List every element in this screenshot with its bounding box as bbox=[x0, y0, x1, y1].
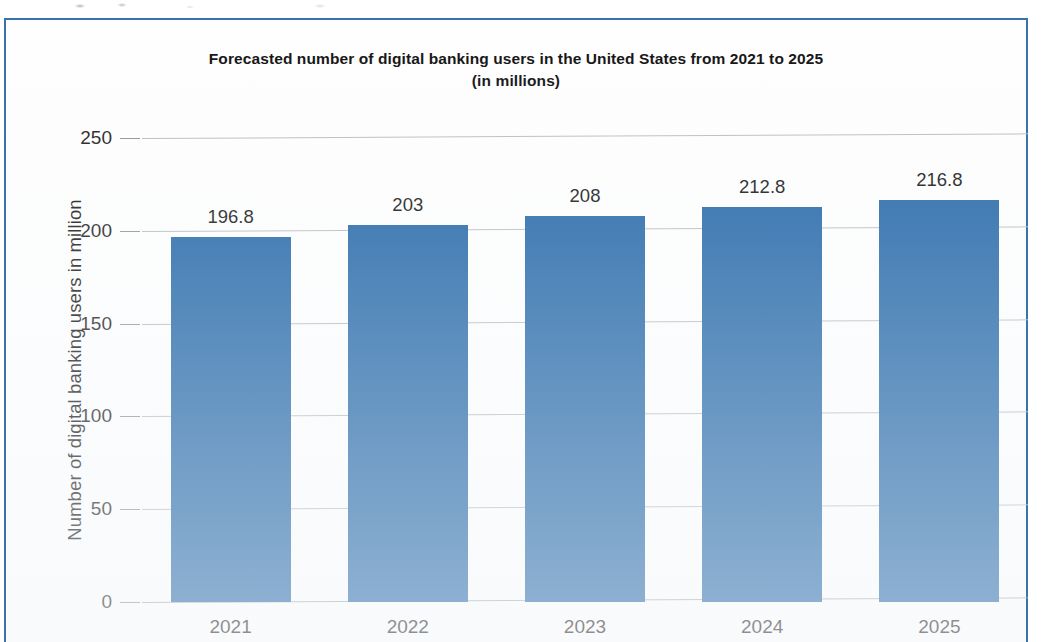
y-tick-mark bbox=[120, 509, 140, 510]
chart-title: Forecasted number of digital banking use… bbox=[6, 48, 1026, 92]
bar[interactable] bbox=[525, 216, 645, 602]
y-tick-label: 200 bbox=[80, 220, 112, 242]
bar-group[interactable]: 216.82025 bbox=[879, 138, 999, 602]
y-tick-mark bbox=[120, 602, 140, 603]
chart-title-line-2: (in millions) bbox=[6, 70, 1026, 92]
bar-group[interactable]: 196.82021 bbox=[171, 138, 291, 602]
bar-group[interactable]: 2032022 bbox=[348, 138, 468, 602]
y-axis-title-text: Number of digital banking users in milli… bbox=[64, 199, 86, 540]
y-tick-mark bbox=[120, 324, 140, 325]
scan-noise bbox=[70, 2, 410, 11]
bar-group[interactable]: 212.82024 bbox=[702, 138, 822, 602]
bar-value-label: 212.8 bbox=[702, 176, 822, 198]
x-tick-label: 2022 bbox=[348, 616, 468, 638]
y-tick-mark bbox=[120, 231, 140, 232]
x-tick-label: 2023 bbox=[525, 616, 645, 638]
chart-title-line-1: Forecasted number of digital banking use… bbox=[6, 48, 1026, 70]
x-tick-label: 2021 bbox=[171, 616, 291, 638]
bar-series: 196.8202120320222082023212.82024216.8202… bbox=[142, 138, 1028, 602]
y-tick-mark bbox=[120, 138, 140, 139]
bar[interactable] bbox=[879, 200, 999, 602]
y-tick-label: 0 bbox=[101, 591, 112, 613]
y-tick-label: 150 bbox=[80, 313, 112, 335]
bar-value-label: 216.8 bbox=[879, 169, 999, 191]
bar[interactable] bbox=[702, 207, 822, 602]
bar-value-label: 208 bbox=[525, 185, 645, 207]
bar[interactable] bbox=[171, 237, 291, 602]
y-tick-mark bbox=[120, 416, 140, 417]
plot-area: 050100150200250 196.82021203202220820232… bbox=[142, 138, 1028, 602]
x-tick-label: 2025 bbox=[879, 616, 999, 638]
y-tick-label: 50 bbox=[91, 498, 112, 520]
bar[interactable] bbox=[348, 225, 468, 602]
y-tick-label: 100 bbox=[80, 405, 112, 427]
x-tick-label: 2024 bbox=[702, 616, 822, 638]
bar-value-label: 196.8 bbox=[171, 206, 291, 228]
chart-page-frame: Forecasted number of digital banking use… bbox=[4, 18, 1028, 642]
y-tick-label: 250 bbox=[80, 127, 112, 149]
y-axis-title: Number of digital banking users in milli… bbox=[62, 138, 88, 602]
bar-value-label: 203 bbox=[348, 194, 468, 216]
bar-group[interactable]: 2082023 bbox=[525, 138, 645, 602]
